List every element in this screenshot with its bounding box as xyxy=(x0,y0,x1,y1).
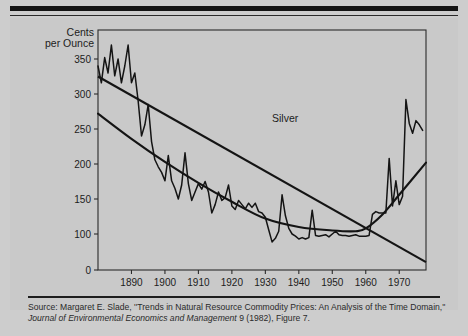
y-tick-label: 200 xyxy=(74,159,91,170)
x-tick-label: 1910 xyxy=(187,277,210,288)
x-tick-label: 1890 xyxy=(120,277,143,288)
source-divider xyxy=(28,296,440,298)
top-rule-thick xyxy=(10,6,458,11)
source-note: Source: Margaret E. Slade, ''Trends in N… xyxy=(28,302,446,323)
x-tick-label: 1920 xyxy=(221,277,244,288)
source-text-prefix: Source: Margaret E. Slade, ''Trends in N… xyxy=(28,302,445,312)
y-tick-label: 0 xyxy=(85,265,91,276)
source-text-suffix: 9 (1982), Figure 7. xyxy=(237,313,310,323)
source-journal-title: Journal of Environmental Economics and M… xyxy=(28,313,237,323)
x-tick-label: 1900 xyxy=(154,277,177,288)
silver-price-chart: 0100150200250300350 18901900191019201930… xyxy=(10,18,458,310)
x-tick-label: 1970 xyxy=(388,277,411,288)
x-tick-label: 1940 xyxy=(288,277,311,288)
x-tick-label: 1960 xyxy=(355,277,378,288)
top-rule-thin xyxy=(10,15,458,16)
y-tick-label: 300 xyxy=(74,89,91,100)
x-tick-label: 1950 xyxy=(321,277,344,288)
silver-price-series xyxy=(98,45,423,242)
y-tick-label: 250 xyxy=(74,124,91,135)
y-tick-label: 150 xyxy=(74,194,91,205)
y-axis-ticks: 0100150200250300350 xyxy=(74,54,98,276)
chart-panel: 0100150200250300350 18901900191019201930… xyxy=(10,18,458,310)
y-tick-label: 350 xyxy=(74,54,91,65)
figure-page: 0100150200250300350 18901900191019201930… xyxy=(0,0,468,336)
x-axis-ticks: 189019001910192019301940195019601970 xyxy=(120,270,410,288)
y-tick-label: 100 xyxy=(74,229,91,240)
series-annotation-silver: Silver xyxy=(272,112,299,124)
linear-trend-line xyxy=(98,77,426,263)
x-tick-label: 1930 xyxy=(254,277,277,288)
y-axis-title-line2: per Ounce xyxy=(45,37,94,49)
